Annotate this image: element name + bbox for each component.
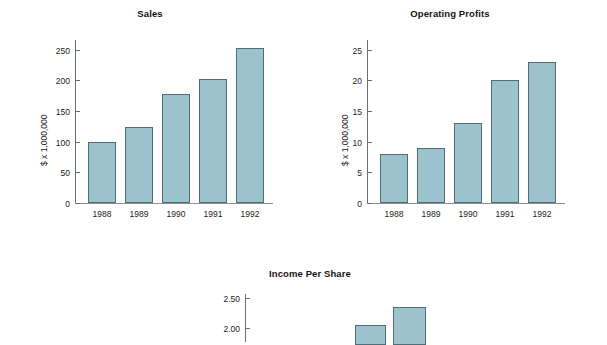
chart-sales: Sales $ x 1,000,000 0 50 100 150 200 250… <box>0 8 300 223</box>
chart-operating-profits-xtick-label-1990: 1990 <box>448 210 488 219</box>
chart-sales-plot-area: 0 50 100 150 200 250 1988 1989 1990 1991… <box>75 40 275 204</box>
chart-operating-profits-xtick-label-1989: 1989 <box>411 210 451 219</box>
chart-sales-tick-150 <box>76 111 80 112</box>
chart-income-per-share-tick-2-00 <box>246 328 250 329</box>
chart-operating-profits-ytick-label-0: 0 <box>341 200 362 209</box>
chart-sales-xtick-label-1988: 1988 <box>82 210 122 219</box>
chart-sales-tick-200 <box>76 80 80 81</box>
chart-sales-ytick-label-250: 250 <box>43 47 70 56</box>
chart-sales-ytick-label-50: 50 <box>43 169 70 178</box>
chart-operating-profits-tick-20 <box>368 80 372 81</box>
chart-income-per-share: Income Per Share 2.00 2.50 <box>160 268 460 342</box>
chart-income-per-share-tick-2-50 <box>246 298 250 299</box>
chart-operating-profits-xtick-label-1992: 1992 <box>522 210 562 219</box>
chart-sales-bar-1991 <box>199 79 227 203</box>
chart-operating-profits: Operating Profits $ x 1,000,000 0 5 10 1… <box>300 8 600 223</box>
chart-sales-tick-100 <box>76 142 80 143</box>
chart-sales-ytick-label-0: 0 <box>43 200 70 209</box>
chart-sales-tick-0 <box>76 203 80 204</box>
chart-sales-x-axis <box>75 203 273 204</box>
chart-sales-title: Sales <box>0 8 300 19</box>
chart-sales-xtick-label-1992: 1992 <box>230 210 270 219</box>
chart-operating-profits-ytick-label-5: 5 <box>341 169 362 178</box>
chart-operating-profits-ytick-label-25: 25 <box>341 47 362 56</box>
chart-operating-profits-bar-1990 <box>454 123 482 203</box>
chart-sales-ytick-label-200: 200 <box>43 77 70 86</box>
chart-income-per-share-title: Income Per Share <box>160 268 460 279</box>
chart-operating-profits-x-axis <box>367 203 565 204</box>
chart-sales-tick-250 <box>76 50 80 51</box>
chart-sales-ytick-label-150: 150 <box>43 108 70 117</box>
chart-operating-profits-tick-15 <box>368 111 372 112</box>
chart-income-per-share-ytick-label-2-00: 2.00 <box>209 325 240 334</box>
chart-operating-profits-bar-1989 <box>417 148 445 203</box>
chart-operating-profits-tick-25 <box>368 50 372 51</box>
chart-sales-xtick-label-1991: 1991 <box>193 210 233 219</box>
chart-operating-profits-ytick-label-20: 20 <box>341 77 362 86</box>
chart-income-per-share-bar-2 <box>393 307 426 345</box>
chart-income-per-share-plot-area: 2.00 2.50 <box>245 294 460 342</box>
chart-operating-profits-bar-1991 <box>491 80 519 203</box>
chart-sales-xtick-label-1989: 1989 <box>119 210 159 219</box>
chart-operating-profits-xtick-label-1988: 1988 <box>374 210 414 219</box>
chart-sales-y-axis <box>75 40 76 204</box>
chart-sales-bar-1988 <box>88 142 116 203</box>
chart-sales-bar-1989 <box>125 127 153 203</box>
chart-income-per-share-ytick-label-2-50: 2.50 <box>209 295 240 304</box>
chart-sales-ytick-label-100: 100 <box>43 139 70 148</box>
chart-operating-profits-bar-1992 <box>528 62 556 203</box>
chart-operating-profits-xtick-label-1991: 1991 <box>485 210 525 219</box>
chart-operating-profits-title: Operating Profits <box>300 8 600 19</box>
chart-income-per-share-y-axis <box>245 294 246 342</box>
chart-operating-profits-tick-5 <box>368 172 372 173</box>
chart-operating-profits-bar-1988 <box>380 154 408 203</box>
chart-operating-profits-ytick-label-15: 15 <box>341 108 362 117</box>
chart-sales-bar-1990 <box>162 94 190 203</box>
chart-operating-profits-plot-area: 0 5 10 15 20 25 1988 1989 1990 1991 1992 <box>367 40 567 204</box>
chart-income-per-share-bar-1 <box>355 325 386 345</box>
chart-operating-profits-ytick-label-10: 10 <box>341 139 362 148</box>
chart-operating-profits-tick-10 <box>368 142 372 143</box>
chart-sales-tick-50 <box>76 172 80 173</box>
chart-operating-profits-y-axis <box>367 40 368 204</box>
chart-sales-bar-1992 <box>236 48 264 203</box>
chart-operating-profits-tick-0 <box>368 203 372 204</box>
chart-sales-xtick-label-1990: 1990 <box>156 210 196 219</box>
